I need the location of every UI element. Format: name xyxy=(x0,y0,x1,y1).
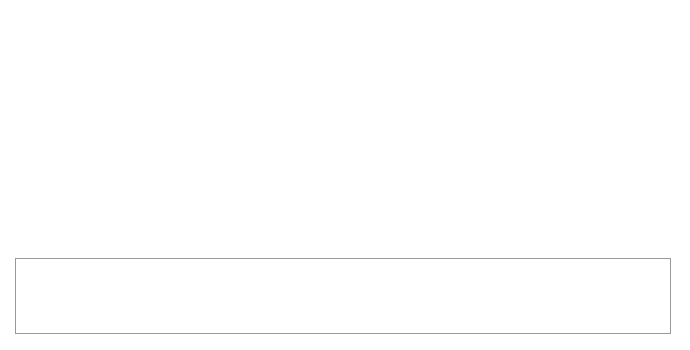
legend-box xyxy=(15,258,671,334)
legend-grid xyxy=(16,259,670,333)
pie-chart-svg xyxy=(0,0,690,250)
chart-page xyxy=(0,0,690,350)
pie-chart xyxy=(0,0,690,250)
